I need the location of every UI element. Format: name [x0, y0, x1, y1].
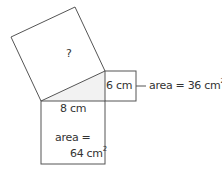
- short-leg-length-label: 6 cm: [106, 80, 132, 91]
- unknown-area-label: ?: [66, 48, 72, 59]
- short-leg-area-label: area = 36 cm2: [149, 80, 222, 91]
- long-leg-area-line2: 64 cm2: [70, 148, 107, 159]
- long-leg-area-line1: area =: [55, 132, 90, 143]
- long-leg-length-label: 8 cm: [60, 103, 86, 114]
